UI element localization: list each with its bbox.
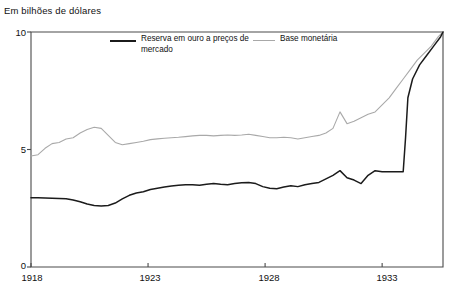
plot-frame [31,32,443,267]
series-line-monetary-base [31,32,443,156]
series-line-gold-reserve [31,32,443,206]
chart-figure: Em bilhões de dólares 10 5 0 1918 1923 1… [0,0,455,296]
data-series-group [31,32,443,206]
plot-area [0,0,455,296]
axis-tickmarks [27,32,382,267]
